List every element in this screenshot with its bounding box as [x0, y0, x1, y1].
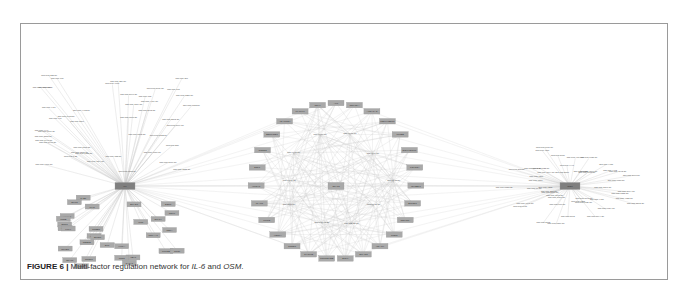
osm-mirna-node: hsa-miR-4286	[529, 175, 544, 177]
central-gene-node: E2F1	[249, 165, 265, 171]
mirna-node: hsa-miR-6133-5p	[75, 152, 93, 154]
osm-mirna-node: hsa-miR-4428	[590, 198, 605, 200]
regulation-network-diagram: hsa-miR-23b-5phsa-miR-217hsa-miR-608hsa-…	[0, 0, 687, 296]
central-gene-node: MELK/TBP11	[379, 118, 395, 124]
mirna-node: hsa-miR-3183-5p	[35, 135, 53, 137]
gene-node: SLIT3	[67, 200, 81, 205]
hub-node-il6: IL6	[115, 183, 135, 190]
osm-mirna-node: hsa-miR-6843-3p	[609, 170, 627, 172]
mirna-node: hsa-miR-4459-5p	[141, 100, 159, 102]
caption-prefix: Multi-factor regulation network for	[71, 262, 192, 271]
svg-text:PTEN: PTEN	[391, 234, 398, 237]
gene-node: NR3C1	[82, 256, 96, 261]
mirna-node: hsa-miR-4434	[42, 106, 57, 108]
mirna-node: hsa-miR-6502-3p	[129, 133, 147, 135]
central-gene-node: PLCB2	[392, 132, 408, 138]
gene-node: CTCF	[170, 248, 184, 253]
gene-node: ESR1	[161, 202, 175, 207]
mirna-node: hsa-miR-1307	[70, 120, 85, 122]
osm-mirna-node: hsa-miR-6811-5p	[546, 194, 564, 196]
osm-mirna-node: hsa-miR-4455	[599, 163, 614, 165]
figure-caption: FIGURE 6 | Multi-factor regulation netwo…	[27, 262, 244, 271]
central-mirna-node: hsa-miR-93-5p	[315, 221, 330, 223]
central-gene-node: SERPINE1	[264, 132, 280, 138]
central-gene-node: VEGFA	[270, 232, 286, 238]
svg-text:CTCF: CTCF	[174, 250, 181, 253]
osm-mirna-node: hsa-miR-6794-5p	[538, 171, 556, 173]
svg-text:CREB1: CREB1	[92, 228, 101, 231]
nodes: hsa-miR-23b-5phsa-miR-217hsa-miR-608hsa-…	[33, 74, 645, 269]
svg-text:CD44: CD44	[314, 104, 321, 107]
svg-text:ALDH1A2: ALDH1A2	[367, 110, 378, 113]
mirna-node: hsa-miR-613	[139, 95, 152, 97]
mirna-node: hsa-miR-3202-3p	[162, 118, 180, 120]
gene-node: SP1	[100, 243, 114, 248]
svg-text:NR3C1: NR3C1	[85, 258, 94, 261]
svg-text:E2F1: E2F1	[254, 166, 260, 169]
central-mirna-node: hsa-let-7g-5p	[343, 132, 357, 134]
central-gene-node: CDKN2A	[397, 217, 413, 223]
mirna-node: hsa-miR-338	[166, 144, 179, 146]
central-gene-node: IGF2BP1	[408, 183, 424, 189]
svg-text:PRKAA1: PRKAA1	[148, 234, 158, 237]
osm-mirna-node: hsa-miR-372-3p	[509, 168, 525, 170]
svg-text:MAPK14: MAPK14	[295, 110, 305, 113]
mirna-node: hsa-miR-3663-5p	[138, 109, 156, 111]
svg-text:MELK/TBP11: MELK/TBP11	[380, 120, 395, 123]
svg-text:BCL6: BCL6	[342, 257, 349, 260]
gene-node: CREB1	[89, 226, 103, 231]
figure-label: FIGURE 6	[27, 262, 64, 271]
svg-text:HIF1A: HIF1A	[118, 245, 125, 248]
svg-text:MYC: MYC	[90, 206, 96, 209]
osm-mirna-node: hsa-miR-6856-5p	[608, 179, 626, 181]
osm-mirna-node: hsa-miR-3202-3p	[627, 202, 645, 204]
mirna-node: hsa-miR-5010-3p	[147, 87, 165, 89]
mirna-node: hsa-miR-6852-5p	[183, 104, 201, 106]
svg-text:IGF2BP1: IGF2BP1	[411, 185, 422, 188]
svg-text:IL6R: IL6R	[138, 221, 143, 224]
osm-mirna-node: hsa-miR-1265	[571, 200, 586, 202]
central-mirna-node: hsa-let-7a-5p	[367, 203, 381, 205]
hub-node-stat3: STAT3	[328, 183, 344, 190]
hub-node-osm: OSM	[560, 183, 580, 190]
svg-text:JUNB: JUNB	[60, 218, 67, 221]
central-gene-node: ADAMTS4	[277, 118, 293, 124]
mirna-node: hsa-miR-1323	[39, 86, 54, 88]
caption-gene-2: OSM	[223, 262, 241, 271]
mirna-node: hsa-miR-1-3p	[64, 155, 78, 157]
svg-text:ICAM1: ICAM1	[256, 202, 264, 205]
svg-text:ADAMTS4: ADAMTS4	[279, 120, 291, 123]
osm-mirna-node: hsa-miR-6758-5p	[496, 186, 514, 188]
osm-mirna-node: hsa-miR-6510-5p	[548, 222, 566, 224]
central-gene-node: BCL2L1	[405, 201, 421, 207]
svg-text:MMP2: MMP2	[263, 219, 271, 222]
central-mirna-node: hsa-let-7i-5p	[367, 152, 380, 154]
mirna-node: hsa-miR-6088-5p	[144, 151, 162, 153]
gene-node: RELA	[163, 227, 177, 232]
mirna-node: hsa-miR-5722-5p	[150, 134, 168, 136]
gene-node: CDK6	[165, 210, 179, 215]
central-gene-node: SMAD3	[355, 252, 371, 258]
osm-mirna-node: hsa-miR-3157	[555, 171, 570, 173]
osm-mirna-node: hsa-miR-5194-3p	[587, 215, 605, 217]
mirna-node: hsa-miR-765	[167, 88, 180, 90]
svg-text:TAB1: TAB1	[80, 197, 86, 200]
osm-mirna-node: hsa-miR-373-5p	[541, 190, 557, 192]
mirna-node: hsa-miR-608	[51, 77, 64, 79]
caption-gene-1: IL-6	[192, 262, 206, 271]
svg-text:CXCL12: CXCL12	[304, 253, 314, 256]
svg-text:TNFRSF11B: TNFRSF11B	[320, 257, 334, 260]
mirna-node: hsa-miR-6854-5p	[125, 103, 143, 105]
mirna-node: hsa-miR-5004-5p	[167, 124, 185, 126]
svg-text:YBX1: YBX1	[130, 256, 137, 259]
central-gene-node: SOX9/SIRT1	[401, 147, 417, 153]
osm-mirna-node: hsa-miR-5703	[561, 215, 576, 217]
svg-text:RELA: RELA	[166, 229, 173, 232]
mirna-node: hsa-miR-4483-5p	[73, 109, 91, 111]
central-gene-node: MAPK14	[292, 109, 308, 115]
mirna-node: hsa-miR-4449	[35, 129, 50, 131]
central-gene-node: PTEN	[386, 232, 402, 238]
svg-text:KLF4: KLF4	[65, 228, 71, 231]
svg-text:VEGFA: VEGFA	[274, 234, 282, 237]
osm-mirna-node: hsa-miR-3064-5p	[618, 190, 636, 192]
